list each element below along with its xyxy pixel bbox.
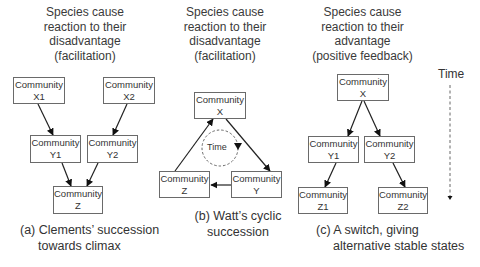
- heading-line: reaction to their: [150, 20, 300, 35]
- box-label: Community: [54, 188, 102, 200]
- community-z1-box: Community Z1: [298, 187, 348, 214]
- community-x1-box: Community X1: [13, 77, 65, 104]
- community-z2-box: Community Z2: [378, 187, 428, 214]
- heading-line: reaction to their: [305, 20, 420, 35]
- box-label: Community: [195, 94, 245, 106]
- arrow-y2-z: [87, 163, 98, 186]
- arrow-y1-z: [62, 163, 71, 186]
- panel-b-caption: (b) Watt’s cyclic succession: [183, 208, 293, 240]
- community-z-box: Community Z: [159, 171, 210, 198]
- box-id: Z2: [379, 201, 427, 213]
- time-cycle-arrowhead: [234, 143, 242, 150]
- heading-line: Species cause: [150, 5, 300, 20]
- caption-line: succession: [183, 224, 293, 240]
- box-label: Community: [338, 76, 388, 88]
- community-x2-box: Community X2: [103, 77, 155, 104]
- box-id: Z: [54, 200, 102, 212]
- time-axis-arrowhead: [448, 196, 453, 200]
- community-x-box: Community X: [337, 74, 389, 101]
- community-y2-box: Community Y2: [87, 135, 138, 163]
- heading-line: (facilitation): [10, 49, 160, 64]
- caption-line: (c) A switch, giving: [316, 222, 464, 238]
- box-label: Community: [365, 138, 414, 150]
- arrow-y1-z1: [325, 163, 336, 187]
- box-label: Community: [299, 189, 347, 201]
- panel-a-heading: Species cause reaction to their disadvan…: [10, 5, 160, 63]
- box-id: X: [195, 106, 245, 118]
- heading-line: (positive feedback): [305, 49, 420, 64]
- community-y2-box: Community Y2: [364, 136, 415, 163]
- arrow-x2-y2: [113, 104, 127, 135]
- heading-line: advantage: [305, 34, 420, 49]
- box-id: Y1: [309, 150, 358, 162]
- heading-line: Species cause: [10, 5, 160, 20]
- arrow-y2-z2: [393, 163, 405, 187]
- arrow-x-y1: [348, 101, 362, 136]
- caption-line: (b) Watt’s cyclic: [183, 208, 293, 224]
- panel-c-caption: (c) A switch, giving alternative stable …: [316, 222, 464, 254]
- community-x-box: Community X: [194, 92, 246, 119]
- box-label: Community: [104, 79, 154, 91]
- community-y-box: Community Y: [231, 171, 282, 198]
- box-id: X1: [14, 91, 64, 103]
- box-id: Y2: [365, 150, 414, 162]
- panel-a-caption: (a) Clements’ succession towards climax: [20, 222, 159, 254]
- community-y1-box: Community Y1: [308, 136, 359, 163]
- heading-line: (facilitation): [150, 49, 300, 64]
- box-label: Community: [14, 79, 64, 91]
- box-label: Community: [379, 189, 427, 201]
- caption-line: towards climax: [20, 238, 159, 254]
- box-label: Community: [160, 173, 209, 185]
- arrow-x1-y1: [38, 104, 53, 135]
- box-id: Z1: [299, 201, 347, 213]
- box-id: Y2: [88, 149, 137, 161]
- box-id: Y: [232, 185, 281, 197]
- arrow-x-y2: [364, 101, 380, 136]
- caption-line: alternative stable states: [316, 238, 464, 254]
- panel-b-heading: Species cause reaction to their disadvan…: [150, 5, 300, 63]
- box-label: Community: [309, 138, 358, 150]
- cycle-time-label: Time: [207, 142, 227, 152]
- box-id: X2: [104, 91, 154, 103]
- heading-line: disadvantage: [150, 34, 300, 49]
- box-label: Community: [232, 173, 281, 185]
- community-z-box: Community Z: [53, 186, 103, 214]
- time-axis-label: Time: [438, 67, 464, 81]
- arrow-x-y: [226, 119, 270, 171]
- box-id: X: [338, 88, 388, 100]
- box-id: Z: [160, 185, 209, 197]
- box-id: Y1: [31, 149, 80, 161]
- panel-c-heading: Species cause reaction to their advantag…: [305, 5, 420, 63]
- caption-line: (a) Clements’ succession: [20, 222, 159, 238]
- community-y1-box: Community Y1: [30, 135, 81, 163]
- heading-line: Species cause: [305, 5, 420, 20]
- box-label: Community: [88, 137, 137, 149]
- heading-line: disadvantage: [10, 34, 160, 49]
- box-label: Community: [31, 137, 80, 149]
- heading-line: reaction to their: [10, 20, 160, 35]
